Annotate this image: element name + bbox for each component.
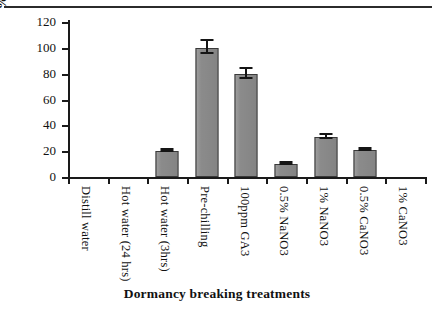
x-tick-mark: [306, 177, 308, 184]
bar: [156, 151, 179, 177]
x-tick-mark: [385, 177, 387, 184]
y-tick-label: 60: [26, 92, 56, 108]
x-category-label: Hot water (24 hrs): [118, 186, 133, 282]
x-category-label: Pre-chilling: [197, 186, 212, 247]
bar: [314, 137, 337, 177]
x-category-label: 100ppm GA3: [237, 186, 252, 256]
bar: [354, 150, 377, 177]
bar-slot: [346, 22, 386, 177]
y-tick-label: 0: [26, 169, 56, 185]
bar-slot: [68, 22, 108, 177]
x-axis-title: Dormancy breaking treatments: [0, 286, 434, 302]
error-bar-cap-lower: [161, 150, 174, 152]
figure-canvas: % germination 120100806040200 Distill wa…: [0, 0, 434, 319]
bar-slot: [147, 22, 187, 177]
error-bar-cap-lower: [319, 137, 332, 139]
x-category-label: Hot water (3hrs): [157, 186, 172, 272]
error-bar-cap-lower: [200, 52, 213, 54]
bar-slot: [306, 22, 346, 177]
plot-area: 120100806040200: [68, 22, 425, 177]
error-bar-cap-upper: [240, 67, 253, 69]
y-tick-label: 120: [26, 14, 56, 30]
error-bar-cap-lower: [240, 77, 253, 79]
x-axis-line: [68, 177, 426, 179]
y-tick-label: 100: [26, 40, 56, 56]
y-tick-label: 20: [26, 143, 56, 159]
y-tick-label: 40: [26, 117, 56, 133]
top-border-rule: [4, 6, 432, 8]
bar-slot: [187, 22, 227, 177]
x-tick-mark: [187, 177, 189, 184]
x-category-label: 0.5% CaNO3: [356, 186, 371, 255]
x-category-label: Distill water: [78, 186, 93, 251]
x-tick-mark: [68, 177, 70, 184]
x-tick-mark: [425, 177, 427, 184]
bar: [275, 164, 298, 177]
bar-slot: [385, 22, 425, 177]
y-tick-label: 80: [26, 66, 56, 82]
x-category-label: 1% NaNO3: [316, 186, 331, 246]
x-tick-mark: [227, 177, 229, 184]
error-bar-cap-upper: [319, 133, 332, 135]
error-bar-cap-lower: [359, 149, 372, 151]
x-tick-mark: [108, 177, 110, 184]
bar: [235, 74, 258, 177]
x-category-label: 1% CaNO3: [395, 186, 410, 246]
x-tick-mark: [147, 177, 149, 184]
x-category-label: 0.5% NaNO3: [276, 186, 291, 256]
error-bar-cap-upper: [200, 39, 213, 41]
x-tick-mark: [346, 177, 348, 184]
bar-slot: [227, 22, 267, 177]
bar: [195, 48, 218, 177]
bar-slot: [266, 22, 306, 177]
error-bar-cap-lower: [280, 163, 293, 165]
y-axis-title: % germination: [0, 0, 10, 30]
bar-slot: [108, 22, 148, 177]
x-tick-mark: [266, 177, 268, 184]
